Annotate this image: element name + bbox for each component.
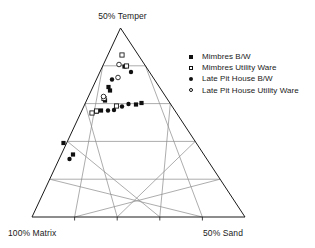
ternary-diagram: 50% Temper 100% Matrix 50% Sand Mimbres … (0, 0, 315, 248)
legend: Mimbres B/WMimbres Utility WareLate Pit … (188, 52, 299, 95)
data-point (108, 88, 112, 92)
data-point (129, 70, 133, 74)
legend-item-1: Mimbres B/W (188, 52, 299, 61)
series-1 (61, 64, 143, 156)
legend-item-2: Mimbres Utility Ware (188, 63, 299, 72)
data-point (112, 108, 116, 112)
marker-glyph (189, 66, 193, 70)
data-point (71, 152, 75, 156)
legend-item-label: Late Pit House Utility Ware (202, 86, 299, 95)
marker-glyph (189, 88, 193, 92)
data-point (94, 109, 98, 113)
open-circle-icon (188, 88, 202, 92)
base-tick-marks (75, 217, 203, 221)
filled-circle-icon (188, 77, 202, 81)
data-point (126, 102, 130, 106)
data-point (101, 94, 106, 99)
legend-item-4: Late Pit House Utility Ware (188, 86, 299, 95)
legend-item-label: Mimbres B/W (202, 52, 251, 61)
data-point (99, 108, 103, 112)
data-point (116, 75, 121, 80)
data-point (117, 62, 122, 67)
marker-glyph (189, 55, 193, 59)
legend-item-label: Late Pit House B/W (202, 74, 273, 83)
data-point (61, 141, 65, 145)
ternary-plot-svg (0, 0, 315, 248)
data-point (120, 104, 124, 108)
apex-axis-label: 50% Temper (0, 11, 245, 21)
legend-item-label: Mimbres Utility Ware (202, 63, 276, 72)
data-point (134, 102, 138, 106)
data-point (124, 64, 128, 68)
data-point (114, 104, 118, 108)
data-point (106, 108, 110, 112)
data-point (120, 53, 124, 57)
data-point (139, 101, 143, 105)
data-point (67, 157, 71, 161)
series-3 (67, 70, 133, 161)
left-axis-label: 100% Matrix (8, 228, 56, 238)
filled-square-icon (188, 55, 202, 59)
data-point (110, 77, 114, 81)
open-square-icon (188, 66, 202, 70)
marker-glyph (189, 77, 193, 81)
data-point (90, 111, 94, 115)
legend-item-3: Late Pit House B/W (188, 74, 299, 83)
right-axis-label: 50% Sand (203, 228, 243, 238)
